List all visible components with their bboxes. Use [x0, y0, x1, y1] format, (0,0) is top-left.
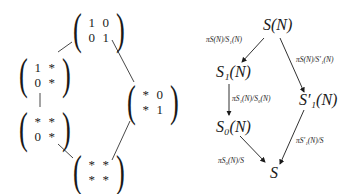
matrix-cell: * [45, 60, 59, 75]
node-s-n: S(N) [263, 16, 292, 34]
right-paren: ) [116, 10, 125, 50]
matrix-right: ( * 0 * 1 ) [124, 82, 181, 122]
left-paren: ( [73, 10, 82, 50]
label-pi-s1pn-s: πS′₁(N)/S [296, 136, 324, 145]
matrix-cell: * [139, 87, 153, 102]
matrix-cell: * [45, 75, 59, 90]
matrix-cell: * [99, 157, 113, 172]
label-pi-sn-s1n: πS(N)/S₁(N) [206, 35, 242, 44]
matrix-cell: 0 [99, 15, 113, 30]
matrix-cell: 0 [31, 129, 45, 144]
matrix-cell: * [99, 172, 113, 187]
matrix-cell: 0 [153, 87, 167, 102]
left-paren: ( [73, 152, 82, 192]
node-s0-n: S₀(N) [216, 118, 251, 136]
matrix-lower-left: ( * * 0 * ) [16, 109, 73, 149]
node-s: S [270, 164, 278, 182]
node-s1-n: S₁(N) [216, 63, 251, 81]
matrix-upper-left: ( 1 * 0 * ) [16, 55, 73, 95]
matrix-cell: * [85, 157, 99, 172]
matrix-cell: * [85, 172, 99, 187]
left-paren: ( [127, 82, 136, 122]
matrix-cell: * [45, 129, 59, 144]
right-paren: ) [170, 82, 179, 122]
matrix-identity: ( 1 0 0 1 ) [70, 10, 127, 50]
matrix-cell: 1 [85, 15, 99, 30]
label-pi-sn-s1pn: πS(N)/S′₁(N) [296, 55, 334, 64]
matrix-bottom: ( * * * * ) [70, 152, 127, 192]
right-paren: ) [116, 152, 125, 192]
matrix-cell: * [45, 114, 59, 129]
right-paren: ) [62, 109, 71, 149]
matrix-cell: 1 [31, 60, 45, 75]
matrix-cell: 0 [31, 75, 45, 90]
label-pi-s1n-s0n: πS₁(N)/S₀(N) [232, 94, 271, 103]
left-paren: ( [19, 109, 28, 149]
node-s1prime-n: S′₁(N) [299, 91, 337, 109]
left-paren: ( [19, 55, 28, 95]
matrix-cell: * [31, 114, 45, 129]
matrix-cell: 0 [85, 30, 99, 45]
label-pi-s0n-s: πS₀(N)/S [218, 156, 244, 165]
matrix-cell: 1 [99, 30, 113, 45]
matrix-cell: 1 [153, 102, 167, 117]
right-paren: ) [62, 55, 71, 95]
matrix-cell: * [139, 102, 153, 117]
